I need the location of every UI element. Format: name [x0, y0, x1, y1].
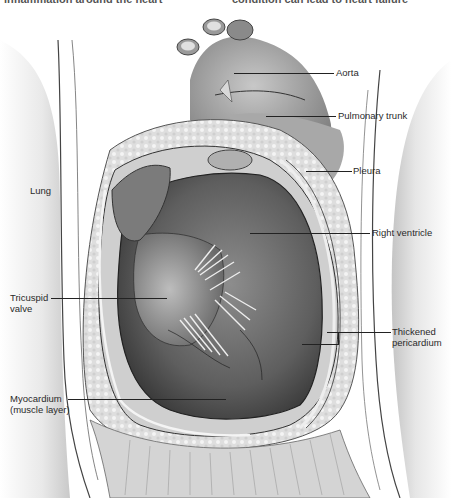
tricuspid-valve-leader — [51, 298, 167, 299]
label-thickened-pericardium-line2: pericardium — [392, 337, 442, 348]
myocardium-leader — [68, 399, 226, 400]
label-pleura: Pleura — [353, 165, 380, 176]
heart-drawing — [0, 0, 451, 498]
label-myocardium-line1: Myocardium — [10, 393, 62, 404]
label-lung: Lung — [30, 185, 51, 196]
label-myocardium-line2: (muscle layer) — [10, 404, 70, 415]
pleura-leader — [306, 171, 352, 172]
right-ventricle-leader — [250, 233, 370, 234]
label-thickened-pericardium-line1: Thickened — [392, 326, 436, 337]
label-tricuspid-valve-line2: valve — [10, 303, 32, 314]
pericardium-leader-top — [327, 332, 391, 333]
label-pulmonary-trunk: Pulmonary trunk — [338, 110, 407, 121]
label-aorta: Aorta — [336, 67, 359, 78]
label-right-ventricle: Right ventricle — [372, 227, 432, 238]
pericardium-leader-bottom — [302, 344, 339, 345]
pulmonary-trunk-leader — [266, 116, 336, 117]
anatomical-illustration: inflammation around the heart condition … — [0, 0, 451, 498]
aorta-leader — [234, 73, 334, 74]
pericardium-leader-vertical — [338, 332, 339, 344]
label-tricuspid-valve-line1: Tricuspid — [10, 292, 48, 303]
